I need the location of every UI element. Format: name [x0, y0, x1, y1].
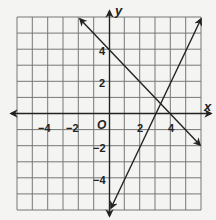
- y-tick-label: 2: [99, 77, 105, 89]
- y-axis-label: y: [114, 3, 123, 18]
- x-tick-label: 2: [137, 122, 143, 134]
- x-axis-label: x: [203, 99, 212, 114]
- y-tick-label: 4: [99, 45, 106, 57]
- origin-label: O: [97, 118, 107, 132]
- coordinate-plane: y x O −4 −2 2 4 4 2 −2 −4: [0, 0, 216, 220]
- x-tick-label: −4: [38, 122, 51, 134]
- y-tick-label: −4: [93, 174, 106, 186]
- y-tick-label: −2: [93, 142, 106, 154]
- x-tick-label: −2: [66, 122, 79, 134]
- x-tick-label: 4: [168, 122, 175, 134]
